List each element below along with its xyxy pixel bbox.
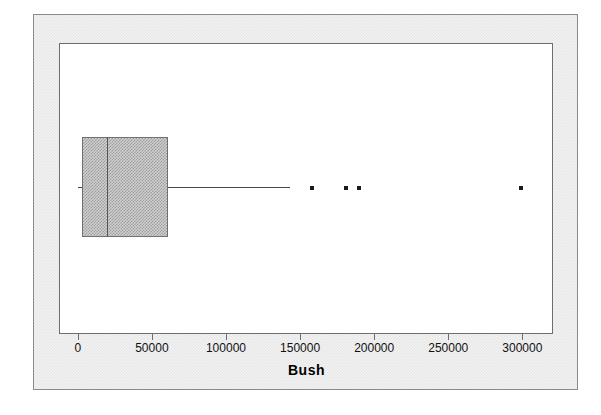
x-axis-title: Bush (34, 362, 579, 378)
x-axis-tick-label: 200000 (354, 341, 394, 355)
x-axis-tick-labels: 050000100000150000200000250000300000 (59, 341, 553, 359)
x-axis-tick-label: 150000 (280, 341, 320, 355)
plot-frame (59, 43, 553, 334)
x-axis-tick (226, 334, 227, 340)
outlier-point (310, 186, 314, 190)
boxplot-canvas (60, 44, 552, 333)
outlier-point (357, 186, 361, 190)
x-axis-tick (374, 334, 375, 340)
x-axis-tick (522, 334, 523, 340)
x-axis-tick-label: 0 (74, 341, 81, 355)
outlier-point (344, 186, 348, 190)
figure-panel: 050000100000150000200000250000300000 Bus… (33, 14, 578, 390)
x-axis-tick-label: 250000 (428, 341, 468, 355)
x-axis-tick-label: 100000 (206, 341, 246, 355)
median-line (107, 137, 108, 237)
x-axis-tick (78, 334, 79, 340)
outlier-point (519, 186, 523, 190)
x-axis-tick-label: 300000 (502, 341, 542, 355)
box-iqr (82, 137, 168, 237)
x-axis-tick (300, 334, 301, 340)
x-axis-tick-label: 50000 (135, 341, 168, 355)
whisker-high (168, 187, 290, 188)
x-axis-tick (448, 334, 449, 340)
x-axis-tick (152, 334, 153, 340)
